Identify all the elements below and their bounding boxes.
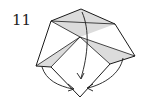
right-shaded-flap — [80, 37, 135, 64]
left-fold-arrow — [42, 67, 73, 89]
origami-diagram — [0, 0, 141, 108]
right-fold-arrow — [88, 58, 123, 88]
